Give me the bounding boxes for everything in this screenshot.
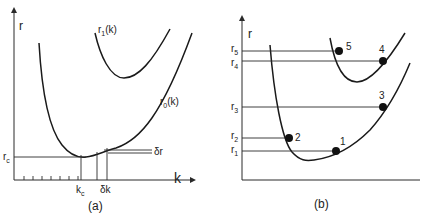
caption-b: (b)	[314, 197, 329, 211]
level-label-r5: r5	[231, 43, 238, 56]
point-1	[332, 147, 340, 155]
point-label-1: 1	[340, 136, 346, 147]
level-label-r1: r1	[231, 144, 238, 157]
y-axis-label-a: r	[19, 19, 23, 33]
figure: r k r1(k) r0(k) rc kc δk δr (a) 5 4 3	[0, 0, 424, 215]
label-rc: rc	[3, 151, 10, 164]
y-axis-label-b: r	[248, 27, 252, 41]
curve-r1	[95, 29, 170, 78]
point-3	[379, 103, 387, 111]
level-label-r3: r3	[231, 101, 238, 114]
level-label-r2: r2	[231, 130, 238, 143]
caption-a: (a)	[88, 199, 103, 213]
x-axis-label-a: k	[174, 170, 182, 186]
point-2	[285, 134, 293, 142]
label-r0k: r0(k)	[160, 96, 179, 109]
label-r1k: r1(k)	[98, 24, 117, 37]
point-4	[379, 57, 387, 65]
label-dr: δr	[154, 146, 164, 157]
panel-a: r k r1(k) r0(k) rc kc δk δr (a)	[3, 10, 193, 213]
curve-upper-b	[330, 33, 405, 82]
point-label-4: 4	[379, 44, 385, 55]
point-5	[335, 47, 343, 55]
label-kc: kc	[76, 184, 85, 197]
k-axis-ticks	[24, 176, 78, 180]
level-label-r4: r4	[231, 57, 238, 70]
point-label-2: 2	[295, 132, 301, 143]
point-label-5: 5	[346, 41, 352, 52]
label-dk: δk	[100, 184, 112, 195]
point-label-3: 3	[379, 90, 385, 101]
panel-b: 5 4 3 2 1 r r5 r4 r3 r2 r1 (b)	[231, 18, 420, 211]
